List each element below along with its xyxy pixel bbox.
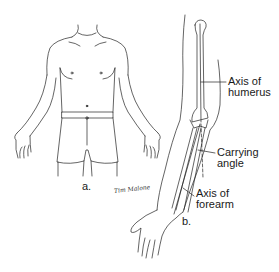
anatomy-illustration bbox=[0, 0, 279, 272]
axis-forearm-label: Axis of forearm bbox=[196, 188, 234, 210]
axis-humerus-label: Axis of humerus bbox=[228, 76, 271, 98]
panel-a-label: a. bbox=[82, 181, 91, 192]
carrying-angle-label: Carrying angle bbox=[217, 147, 259, 169]
torso-figure bbox=[15, 25, 161, 176]
panel-b-label: b. bbox=[182, 216, 191, 227]
